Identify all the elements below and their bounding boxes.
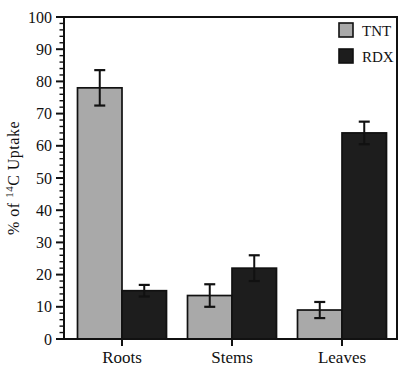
bar-roots-tnt — [78, 88, 123, 339]
bar-roots-rdx — [122, 291, 167, 339]
y-tick-label: 0 — [44, 331, 52, 348]
y-tick-label: 60 — [36, 137, 52, 154]
y-tick-label: 20 — [36, 266, 52, 283]
x-category-label-leaves: Leaves — [318, 348, 366, 367]
chart-canvas: 0102030405060708090100RootsStemsLeavesTN… — [0, 0, 409, 373]
y-tick-label: 70 — [36, 105, 52, 122]
legend-label-rdx: RDX — [362, 49, 394, 65]
y-tick-label: 40 — [36, 202, 52, 219]
y-axis-title-superscript: 14 — [3, 186, 15, 198]
x-category-label-roots: Roots — [102, 348, 142, 367]
legend-label-tnt: TNT — [362, 23, 391, 39]
x-category-label-stems: Stems — [211, 348, 253, 367]
y-axis-title-suffix: C Uptake — [5, 121, 22, 186]
y-tick-label: 90 — [36, 41, 52, 58]
legend-swatch-tnt — [339, 23, 353, 37]
y-tick-label: 30 — [36, 234, 52, 251]
y-tick-label: 80 — [36, 73, 52, 90]
y-axis-title-prefix: % of — [5, 198, 22, 235]
y-tick-label: 10 — [36, 298, 52, 315]
y-tick-label: 50 — [36, 170, 52, 187]
bar-leaves-rdx — [342, 133, 387, 339]
y-axis-title: % of 14C Uptake — [5, 121, 23, 235]
bar-chart-figure: % of 14C Uptake 0102030405060708090100Ro… — [0, 0, 409, 373]
legend-swatch-rdx — [339, 49, 353, 63]
y-tick-label: 100 — [28, 9, 52, 26]
